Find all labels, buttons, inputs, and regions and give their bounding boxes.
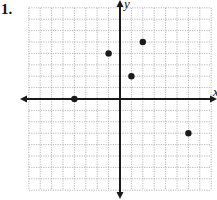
y-axis-down-arrow-icon xyxy=(117,192,124,199)
data-point xyxy=(128,73,134,79)
data-point xyxy=(71,96,77,102)
data-point xyxy=(105,50,111,56)
axes: y x xyxy=(20,0,217,199)
coordinate-plane: y x xyxy=(0,0,217,200)
y-axis-label: y xyxy=(122,0,130,11)
data-point xyxy=(185,130,191,136)
data-point xyxy=(140,39,146,45)
x-axis-left-arrow-icon xyxy=(20,96,27,103)
x-axis-label: x xyxy=(212,84,217,99)
y-axis-up-arrow-icon xyxy=(117,0,124,7)
